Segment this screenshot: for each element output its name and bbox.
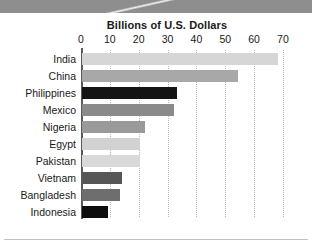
category-label-egypt: Egypt bbox=[0, 138, 76, 150]
chart-row: Indonesia bbox=[0, 204, 312, 221]
chart-row: Mexico bbox=[0, 101, 312, 118]
plot-area: 010203040506070 IndiaChinaPhilippinesMex… bbox=[0, 13, 312, 235]
category-label-nigeria: Nigeria bbox=[0, 121, 76, 133]
chart-row: China bbox=[0, 67, 312, 84]
bar-pakistan bbox=[82, 155, 140, 167]
category-label-vietnam: Vietnam bbox=[0, 172, 76, 184]
chart-row: Philippines bbox=[0, 84, 312, 101]
top-decorative-band bbox=[0, 0, 312, 13]
chart-row: Egypt bbox=[0, 136, 312, 153]
x-tick-label: 40 bbox=[181, 33, 211, 45]
bar-vietnam bbox=[82, 172, 122, 184]
category-label-indonesia: Indonesia bbox=[0, 206, 76, 218]
bar-india bbox=[82, 53, 278, 65]
bar-philippines bbox=[82, 87, 177, 99]
x-tick-label: 0 bbox=[66, 33, 96, 45]
chart-figure: Billions of U.S. Dollars 010203040506070… bbox=[0, 13, 312, 235]
x-tick-label: 70 bbox=[268, 33, 298, 45]
x-tick-label: 10 bbox=[95, 33, 125, 45]
bar-nigeria bbox=[82, 121, 145, 133]
category-label-india: India bbox=[0, 53, 76, 65]
x-tick-label: 50 bbox=[210, 33, 240, 45]
bottom-divider bbox=[4, 239, 308, 240]
chart-row: India bbox=[0, 50, 312, 67]
x-tick-label: 60 bbox=[239, 33, 269, 45]
bar-mexico bbox=[82, 104, 174, 116]
chart-row: Nigeria bbox=[0, 118, 312, 135]
chart-row: Pakistan bbox=[0, 153, 312, 170]
category-label-bangladesh: Bangladesh bbox=[0, 189, 76, 201]
category-label-china: China bbox=[0, 70, 76, 82]
x-tick-label: 30 bbox=[153, 33, 183, 45]
x-tick-label: 20 bbox=[124, 33, 154, 45]
band-light-streak bbox=[95, 0, 226, 13]
bar-china bbox=[82, 70, 238, 82]
category-label-philippines: Philippines bbox=[0, 87, 76, 99]
bar-bangladesh bbox=[82, 189, 120, 201]
category-label-pakistan: Pakistan bbox=[0, 155, 76, 167]
category-label-mexico: Mexico bbox=[0, 104, 76, 116]
chart-row: Vietnam bbox=[0, 170, 312, 187]
bar-indonesia bbox=[82, 206, 108, 218]
chart-row: Bangladesh bbox=[0, 187, 312, 204]
bar-egypt bbox=[82, 138, 140, 150]
